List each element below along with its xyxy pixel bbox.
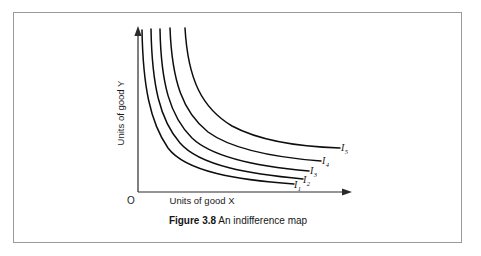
- curve-label-i4: I4: [321, 155, 330, 168]
- origin-label: O: [127, 195, 135, 206]
- indifference-curve-i1: [142, 30, 294, 184]
- svg-text:Figure 3.8 An indifference map: Figure 3.8 An indifference map: [169, 215, 308, 226]
- indifference-curve-i5: [185, 28, 340, 148]
- curve-label-i5-sub: 5: [345, 148, 349, 155]
- figure-caption: Figure 3.8 An indifference map: [169, 215, 308, 226]
- y-axis-label: Units of good Y: [115, 80, 126, 145]
- figure-page: I1 I2 I3 I4 I5 O Units of good X: [0, 0, 481, 256]
- y-axis: [134, 26, 141, 192]
- indifference-curve-i4: [170, 28, 321, 161]
- x-axis-label: Units of good X: [170, 195, 236, 206]
- caption-figure-number: Figure 3.8: [169, 215, 217, 226]
- svg-text:I5: I5: [340, 142, 349, 155]
- curve-label-i4-sub: 4: [326, 161, 330, 168]
- indifference-curve-i3: [160, 29, 309, 171]
- indifference-map-chart: I1 I2 I3 I4 I5 O Units of good X: [0, 0, 481, 256]
- curve-label-i1: I1: [293, 179, 301, 192]
- curve-label-i3: I3: [309, 165, 318, 178]
- svg-text:I1: I1: [293, 179, 301, 192]
- svg-text:I4: I4: [321, 155, 330, 168]
- curve-label-i5: I5: [340, 142, 349, 155]
- caption-figure-title: An indifference map: [218, 215, 307, 226]
- curve-label-i1-sub: 1: [298, 185, 301, 192]
- curve-label-i2-sub: 2: [307, 180, 311, 187]
- curve-label-i3-sub: 3: [313, 171, 318, 178]
- svg-text:I3: I3: [309, 165, 318, 178]
